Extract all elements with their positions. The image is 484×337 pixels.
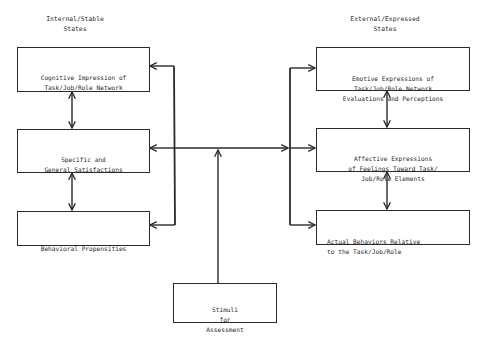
box-emotive-expressions: Emotive Expressions of Task/Job/Role Net… [316, 47, 470, 91]
box-behavioral-propensities-label: Behavioral Propensities [18, 244, 149, 254]
box-behavioral-propensities: Behavioral Propensities [17, 211, 150, 246]
box-stimuli-label: Stimuli for Assessment [174, 305, 276, 335]
box-actual-behaviors-label: Actual Behaviors Relative to the Task/Jo… [327, 237, 469, 257]
box-emotive-expressions-label: Emotive Expressions of Task/Job/Role Net… [317, 74, 469, 104]
box-affective-expressions-label: Affective Expressions of Feelings Toward… [317, 154, 469, 184]
box-affective-expressions: Affective Expressions of Feelings Toward… [316, 128, 470, 172]
box-stimuli: Stimuli for Assessment [173, 283, 277, 323]
box-satisfactions: Specific and General Satisfactions [17, 129, 150, 173]
left-column-heading: Internal/Stable States [30, 14, 120, 34]
box-satisfactions-label: Specific and General Satisfactions [18, 155, 149, 175]
box-actual-behaviors: Actual Behaviors Relative to the Task/Jo… [316, 210, 470, 245]
right-column-heading: External/Expressed States [320, 14, 450, 34]
box-cognitive-impression-label: Cognitive Impression of Task/Job/Role Ne… [18, 73, 149, 93]
left-bus [174, 66, 175, 225]
box-cognitive-impression: Cognitive Impression of Task/Job/Role Ne… [17, 47, 150, 92]
